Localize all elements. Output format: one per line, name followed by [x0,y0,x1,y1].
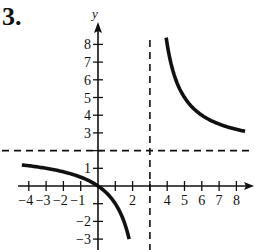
x-tick-label: −4 [18,193,33,208]
y-axis-label: y [90,6,98,21]
y-tick-label: 7 [84,55,91,70]
x-tick-label: −2 [53,193,68,208]
x-tick-label: 2 [129,193,136,208]
x-tick-label: −1 [70,193,85,208]
x-tick-label: 6 [198,193,205,208]
x-tick-label: −3 [36,193,51,208]
x-tick-label: 7 [216,193,223,208]
y-tick-label: 6 [84,73,91,88]
y-tick-label: 1 [84,161,91,176]
y-tick-label: −2 [76,214,91,229]
curve-right-branch [166,38,245,132]
y-tick-label: 8 [84,37,91,52]
x-tick-label: 4 [164,193,171,208]
x-tick-label: 5 [181,193,188,208]
y-tick-label: 3 [84,126,91,141]
figure: 3. y−4−3−2−1245678−3−21345678 [0,0,260,250]
y-tick-label: 4 [84,108,91,123]
y-tick-label: −3 [76,232,91,247]
x-tick-label: 8 [233,193,240,208]
y-tick-label: 5 [84,91,91,106]
graph: y−4−3−2−1245678−3−21345678 [0,0,260,250]
